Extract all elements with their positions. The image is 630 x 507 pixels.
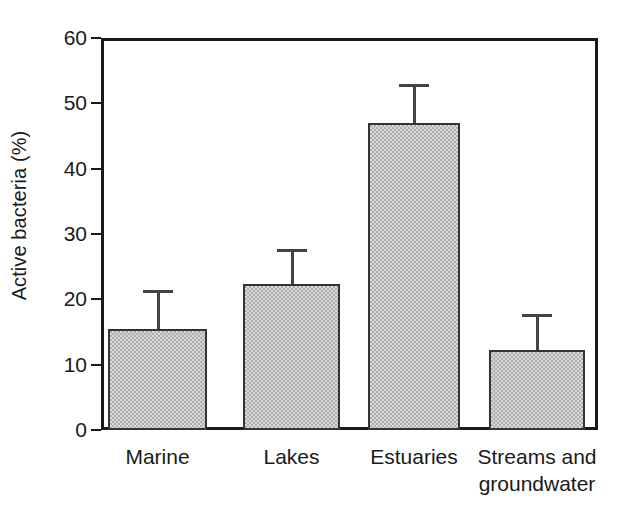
y-axis-title: Active bacteria (%)	[0, 0, 40, 430]
y-axis-tick-mark	[91, 298, 101, 300]
bar-group-lakes	[243, 38, 340, 430]
y-axis-tick-label: 50	[64, 90, 87, 116]
y-axis-tick-label: 60	[64, 25, 87, 51]
y-axis-tick-label: 40	[64, 156, 87, 182]
y-axis-tick-mark	[91, 233, 101, 235]
y-axis-tick-mark	[91, 168, 101, 170]
bar-chart-figure: Active bacteria (%) 0102030405060 Marine…	[0, 0, 630, 507]
y-axis-tick-mark	[91, 102, 101, 104]
plot-area	[101, 38, 598, 430]
bar-group-streams-and	[489, 38, 585, 430]
y-axis-tick-mark	[91, 429, 101, 431]
bar-group-estuaries	[368, 38, 460, 430]
bar-estuaries[interactable]	[368, 123, 460, 430]
y-axis-tick-mark	[91, 37, 101, 39]
y-axis-tick-mark	[91, 364, 101, 366]
error-bar-cap	[522, 314, 552, 317]
y-axis-title-text: Active bacteria (%)	[9, 130, 32, 300]
error-bar-cap	[277, 249, 307, 252]
y-axis-tick-label: 20	[64, 286, 87, 312]
bar-streams-and[interactable]	[489, 350, 585, 430]
error-bar-stem	[157, 290, 160, 329]
y-axis-tick-label: 10	[64, 352, 87, 378]
error-bar-stem	[413, 84, 416, 123]
error-bar-stem	[291, 249, 294, 284]
y-axis-tick-label: 0	[75, 417, 87, 443]
bar-group-marine	[108, 38, 207, 430]
error-bar-stem	[536, 314, 539, 351]
bar-lakes[interactable]	[243, 284, 340, 430]
bar-marine[interactable]	[108, 329, 207, 430]
y-axis-tick-label: 30	[64, 221, 87, 247]
x-axis-label-streams-and: Streams and groundwater	[459, 443, 615, 497]
error-bar-cap	[399, 84, 429, 87]
error-bar-cap	[143, 290, 173, 293]
